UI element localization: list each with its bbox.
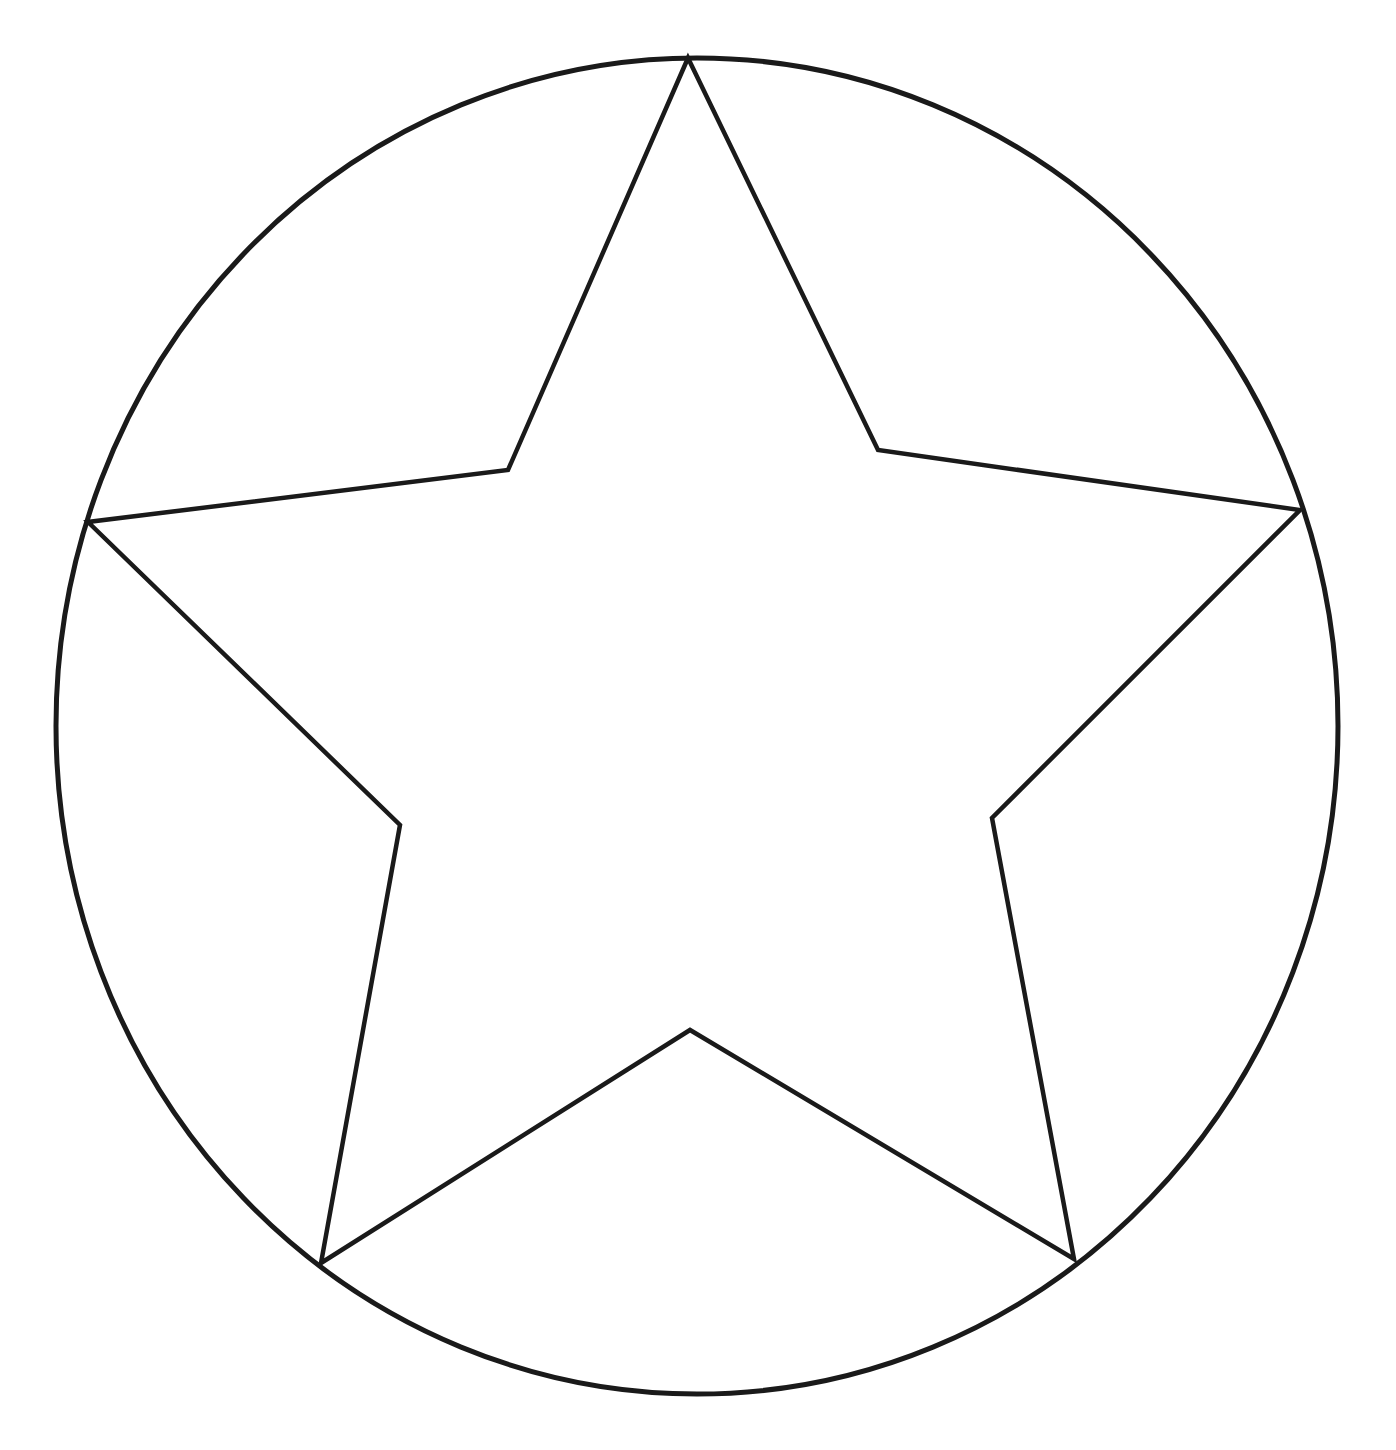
star-in-circle-figure xyxy=(0,0,1396,1450)
drawing-canvas xyxy=(0,0,1396,1450)
background-rect xyxy=(0,0,1396,1450)
